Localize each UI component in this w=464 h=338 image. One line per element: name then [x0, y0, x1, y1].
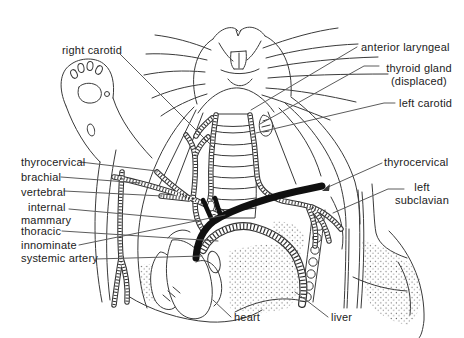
cat-artery-diagram: right carotid anterior laryngeal thyroid…: [0, 0, 464, 338]
label-left-subclavian: left subclavian: [389, 181, 455, 206]
label-right-carotid: right carotid: [62, 44, 122, 57]
label-left-subclavian-line1: left: [389, 181, 455, 194]
label-anterior-laryngeal: anterior laryngeal: [361, 41, 450, 54]
label-thyroid-gland: thyroid gland (displaced): [381, 62, 457, 87]
label-left-carotid: left carotid: [399, 97, 452, 110]
label-thyroid-gland-line2: (displaced): [381, 75, 457, 88]
whiskers-left: [144, 35, 211, 116]
label-thyrocervical-left: thyrocervical: [21, 156, 85, 169]
label-internal-mammary-line1: internal: [21, 201, 71, 214]
label-internal-mammary: internal mammary: [21, 201, 71, 226]
label-thyrocervical-right: thyrocervical: [384, 156, 448, 169]
label-liver: liver: [331, 311, 352, 324]
label-systemic-artery: systemic artery: [21, 252, 98, 265]
label-vertebral: vertebral: [21, 186, 66, 199]
label-heart: heart: [234, 311, 260, 324]
label-thyroid-gland-line1: thyroid gland: [381, 62, 457, 75]
label-brachial: brachial: [21, 171, 61, 184]
label-innominate: innominate: [21, 239, 77, 252]
label-thoracic: thoracic: [21, 225, 61, 238]
label-left-subclavian-line2: subclavian: [389, 194, 455, 207]
